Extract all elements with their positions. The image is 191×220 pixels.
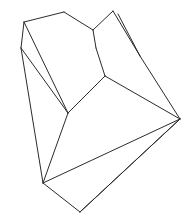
line-drawing-figure — [0, 0, 191, 220]
polyhedron-wireframe — [0, 0, 191, 220]
